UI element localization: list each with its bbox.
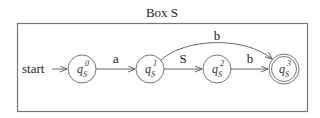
state-q2: q 2 S <box>203 55 231 83</box>
state-q3-accepting: q 3 S <box>269 54 299 84</box>
svg-text:0: 0 <box>85 59 89 68</box>
transition-q2-q3: b <box>231 51 268 69</box>
automaton-diagram: Box S start q 0 S q 1 S q 2 S q 3 S a S … <box>0 0 320 118</box>
start-label: start <box>22 61 45 76</box>
box-title: Box S <box>146 5 178 20</box>
svg-text:S: S <box>83 70 87 79</box>
svg-text:S: S <box>151 70 155 79</box>
svg-text:S: S <box>218 70 222 79</box>
svg-text:b: b <box>247 51 254 66</box>
svg-text:a: a <box>113 51 119 66</box>
transition-q0-q1: a <box>96 51 135 69</box>
svg-text:S: S <box>285 70 289 79</box>
svg-text:3: 3 <box>286 59 291 68</box>
state-q0: q 0 S <box>68 55 96 83</box>
state-q1: q 1 S <box>136 55 164 83</box>
svg-text:1: 1 <box>153 59 157 68</box>
svg-text:2: 2 <box>220 59 224 68</box>
svg-text:b: b <box>214 28 221 43</box>
svg-text:S: S <box>179 51 186 66</box>
